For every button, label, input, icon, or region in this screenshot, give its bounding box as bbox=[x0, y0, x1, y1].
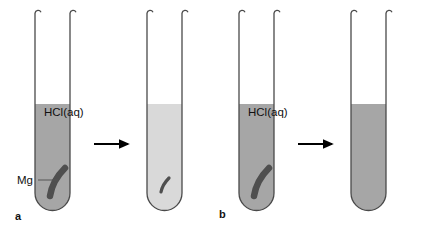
test-tube-b-after bbox=[350, 10, 392, 212]
acid-label-a: HCl(aq) bbox=[44, 107, 84, 119]
tube-rim-left-a-after bbox=[147, 10, 153, 13]
tube-rim-right-b-before bbox=[274, 10, 280, 13]
liquid-b-after bbox=[350, 104, 387, 212]
tube-rim-right-a-before bbox=[70, 10, 76, 13]
tube-rim-right-b-after bbox=[386, 10, 392, 13]
magnesium-label: Mg bbox=[17, 175, 33, 187]
tube-rim-right-a-after bbox=[182, 10, 188, 13]
test-tube-a-after bbox=[146, 10, 188, 212]
panel-label-a: a bbox=[15, 211, 21, 222]
tube-rim-left-a-before bbox=[35, 10, 41, 13]
tube-rim-left-b-after bbox=[351, 10, 357, 13]
panel-label-b: b bbox=[219, 209, 226, 220]
acid-label-b: HCl(aq) bbox=[248, 107, 288, 119]
liquid-a-after bbox=[146, 104, 183, 212]
tube-rim-left-b-before bbox=[239, 10, 245, 13]
